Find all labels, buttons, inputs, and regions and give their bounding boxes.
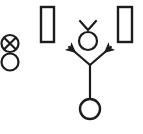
chevron-down-icon [80, 21, 96, 30]
receiver-circle [79, 32, 97, 50]
open-circle-player [2, 54, 19, 71]
ball-carrier-circle [80, 99, 100, 119]
rectangle-left [41, 7, 54, 42]
play-diagram-svg [0, 0, 143, 134]
play-diagram-canvas [0, 0, 143, 134]
crossed-circle-defender [2, 35, 19, 52]
rectangle-right [118, 7, 132, 42]
